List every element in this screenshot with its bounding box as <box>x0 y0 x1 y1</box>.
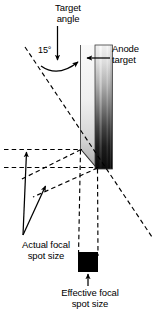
anode-target-shape <box>81 45 113 169</box>
figure-root: Target angle 15° Anode target Actual foc… <box>0 0 162 316</box>
anode-highlight-stripe-2 <box>107 46 109 169</box>
label-target-angle-value: 15° <box>38 45 78 56</box>
dashed-ray-upper-left <box>20 150 81 181</box>
label-effective-focal-spot-size: Effective focal spot size <box>28 288 152 309</box>
target-angle-arc <box>41 62 78 71</box>
label-target-angle: Target angle <box>28 3 108 24</box>
anode-body-bar <box>95 45 111 169</box>
anode-highlight-stripe <box>100 46 102 169</box>
target-angle-arc-group <box>41 62 78 71</box>
construction-lines <box>4 47 152 256</box>
leader-actual-focal-upper <box>23 152 27 235</box>
label-anode-target: Anode target <box>112 44 162 65</box>
anode-front-face <box>81 45 98 169</box>
label-actual-focal-spot-size: Actual focal spot size <box>2 240 90 261</box>
dashed-vertical-right <box>98 169 99 256</box>
leader-actual-focal-lower <box>23 186 46 235</box>
